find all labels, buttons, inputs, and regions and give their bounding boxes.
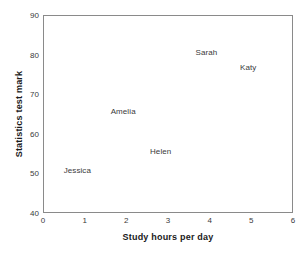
data-point-label: Jessica xyxy=(64,166,91,175)
data-point-label: Helen xyxy=(150,146,171,155)
x-axis-tick-labels: 0123456 xyxy=(43,216,293,228)
y-axis-tick-labels: 405060708090 xyxy=(20,15,39,213)
x-axis-title: Study hours per day xyxy=(43,232,293,242)
x-axis-tick-label: 6 xyxy=(291,216,295,225)
x-axis-tick-label: 3 xyxy=(166,216,170,225)
x-axis-tick-label: 0 xyxy=(41,216,45,225)
y-axis-tick-label: 50 xyxy=(30,169,39,178)
x-axis-tick-label: 5 xyxy=(249,216,253,225)
y-axis-tick-label: 70 xyxy=(30,90,39,99)
plot-area: JessicaAmeliaHelenSarahKaty xyxy=(43,15,293,213)
y-axis-tick-label: 80 xyxy=(30,50,39,59)
x-axis-tick-label: 4 xyxy=(207,216,211,225)
data-point-label: Sarah xyxy=(196,47,218,56)
data-point-label: Amelia xyxy=(111,107,136,116)
scatter-chart: Statistics test mark 405060708090 Jessic… xyxy=(0,0,306,256)
y-axis-tick-label: 90 xyxy=(30,11,39,20)
data-point-label: Katy xyxy=(240,63,256,72)
x-axis-tick-label: 2 xyxy=(124,216,128,225)
y-axis-tick-label: 40 xyxy=(30,209,39,218)
y-axis-tick-label: 60 xyxy=(30,129,39,138)
x-axis-tick-label: 1 xyxy=(82,216,86,225)
